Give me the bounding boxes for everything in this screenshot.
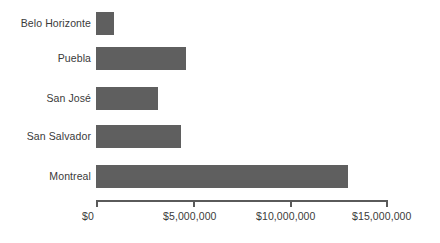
category-label-montreal: Montreal <box>49 170 91 182</box>
x-axis-tick-label-0: $0 <box>82 210 94 223</box>
x-axis-tick-1 <box>193 200 195 207</box>
bar-san-salvador <box>96 125 181 148</box>
x-axis-tick-label-3: $15,000,000 <box>352 210 412 223</box>
horizontal-bar-chart: Belo Horizonte Puebla San José San Salva… <box>0 0 440 243</box>
category-label-puebla: Puebla <box>58 52 91 64</box>
bar-montreal <box>96 165 348 188</box>
x-axis-tick-label-2: $10,000,000 <box>256 210 316 223</box>
category-label-san-salvador: San Salvador <box>27 130 91 142</box>
x-axis-tick-label-1: $5,000,000 <box>163 210 217 223</box>
x-axis-tick-3 <box>386 200 388 207</box>
bar-san-jose <box>96 87 158 110</box>
bar-belo-horizonte <box>96 12 114 35</box>
x-axis-tick-2 <box>290 200 292 207</box>
category-label-san-jose: San José <box>46 92 91 104</box>
bar-puebla <box>96 47 186 70</box>
x-axis-tick-0 <box>96 200 98 207</box>
x-axis-line <box>96 200 388 202</box>
category-label-belo-horizonte: Belo Horizonte <box>21 17 91 29</box>
